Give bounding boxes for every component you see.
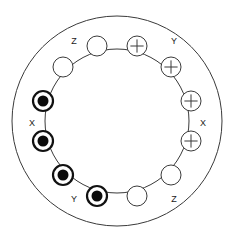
label-x-right: X: [200, 118, 206, 128]
label-y-bottom: Y: [71, 194, 77, 204]
slot-conductor: [87, 186, 107, 206]
conductor-dot-icon: [38, 136, 49, 147]
slot-conductor: [53, 165, 73, 185]
slot-conductor: [33, 131, 53, 151]
stator-diagram: ZYXXYZ: [0, 0, 235, 243]
conductor-empty-circle-icon: [161, 165, 181, 185]
outer-stator-ring: [12, 16, 222, 226]
slot-conductor: [87, 36, 107, 56]
slot-conductors-group: [33, 36, 201, 206]
conductor-dot-icon: [58, 170, 69, 181]
slot-conductor: [53, 57, 73, 77]
slot-conductor: [181, 91, 201, 111]
label-y-top: Y: [171, 36, 177, 46]
stator-cross-section-svg: ZYXXYZ: [0, 0, 235, 243]
conductor-dot-icon: [92, 191, 103, 202]
label-z-top: Z: [71, 36, 77, 46]
slot-conductor: [161, 57, 181, 77]
conductor-empty-circle-icon: [53, 57, 73, 77]
slot-conductor: [33, 91, 53, 111]
conductor-empty-circle-icon: [87, 36, 107, 56]
label-x-left: X: [29, 118, 35, 128]
conductor-dot-icon: [38, 96, 49, 107]
slot-conductor: [127, 36, 147, 56]
conductor-empty-circle-icon: [127, 186, 147, 206]
label-z-bottom: Z: [171, 194, 177, 204]
slot-conductor: [181, 131, 201, 151]
slot-conductor: [161, 165, 181, 185]
slot-conductor: [127, 186, 147, 206]
